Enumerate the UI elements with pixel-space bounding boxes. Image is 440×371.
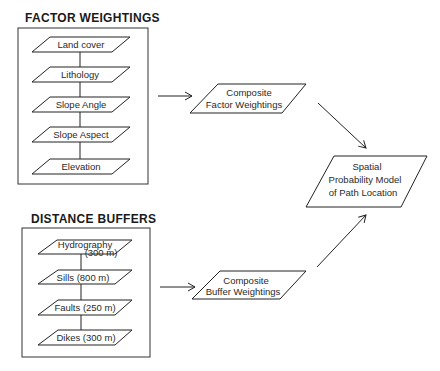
layer-label: Land cover — [57, 39, 104, 50]
layer-land-cover: Land cover — [32, 37, 130, 52]
layer-label: Lithology — [61, 69, 99, 80]
flow-diagram: FACTOR WEIGHTINGS Land cover Lithology S… — [0, 0, 440, 371]
composite-buffer-weightings: Composite Buffer Weightings — [192, 271, 306, 299]
arrow-buffer-composite-to-output — [317, 215, 366, 267]
arrow-factor-composite-to-output — [318, 103, 366, 148]
layer-label: Sills (800 m) — [57, 272, 110, 283]
layer-elevation: Elevation — [32, 159, 130, 174]
layer-hydrography: Hydrography (300 m) — [38, 239, 132, 258]
layer-label-sub: (300 m) — [85, 247, 118, 258]
output-line2: Probability Model — [329, 174, 402, 185]
output-line1: Spatial — [352, 161, 381, 172]
spatial-probability-model: Spatial Probability Model of Path Locati… — [306, 156, 427, 207]
factor-weightings-title: FACTOR WEIGHTINGS — [25, 11, 160, 25]
composite-factor-weightings: Composite Factor Weightings — [190, 84, 306, 113]
layer-slope-angle: Slope Angle — [32, 97, 130, 112]
layer-label: Elevation — [61, 161, 100, 172]
composite-factor-line1: Composite — [226, 87, 271, 98]
layer-dikes: Dikes (300 m) — [38, 330, 132, 345]
layer-label: Faults (250 m) — [54, 302, 115, 313]
composite-factor-line2: Factor Weightings — [206, 99, 283, 110]
composite-buffer-line2: Buffer Weightings — [206, 286, 281, 297]
distance-buffers-title: DISTANCE BUFFERS — [31, 212, 156, 226]
output-line3: of Path Location — [329, 187, 398, 198]
layer-lithology: Lithology — [32, 67, 130, 82]
factor-weightings-group: FACTOR WEIGHTINGS Land cover Lithology S… — [18, 11, 160, 184]
layer-label: Slope Angle — [56, 99, 107, 110]
layer-sills: Sills (800 m) — [38, 270, 132, 284]
layer-faults: Faults (250 m) — [38, 300, 132, 315]
layer-label: Slope Aspect — [53, 129, 109, 140]
composite-buffer-line1: Composite — [223, 275, 268, 286]
layer-label: Dikes (300 m) — [56, 332, 115, 343]
layer-slope-aspect: Slope Aspect — [32, 127, 130, 142]
distance-buffers-group: DISTANCE BUFFERS Hydrography (300 m) Sil… — [22, 212, 156, 357]
